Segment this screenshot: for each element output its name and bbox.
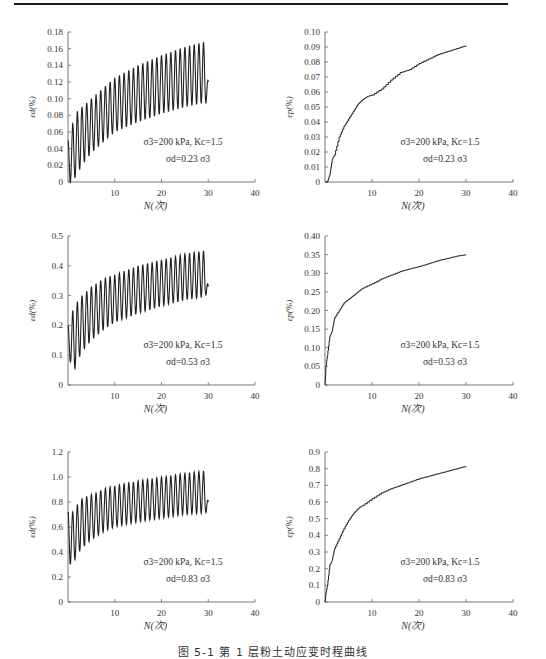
y-tick-label: 0.1 [52,350,63,360]
x-tick-label: 20 [157,391,167,401]
x-tick-label: 10 [110,391,120,401]
x-axis-label: N(次) [143,200,168,212]
y-tick-label: 0.2 [52,320,63,330]
y-tick-label: 0.08 [304,57,320,67]
y-tick-label: 0.18 [47,27,63,37]
y-axis-label: εp(%) [284,516,294,538]
y-tick-label: 0.5 [309,514,321,524]
chart-row2-right: 00.050.100.150.200.250.300.350.401020304… [284,231,518,415]
y-tick-label: 0.25 [304,287,320,297]
x-tick-label: 10 [368,608,378,618]
chart-row1-right: 00.010.020.030.040.050.060.070.080.090.1… [284,27,518,212]
chart-annotation: σ3=200 kPa, Kc=1.5 [143,340,222,350]
y-tick-label: 0.6 [52,522,64,532]
y-tick-label: 0 [316,380,321,390]
x-tick-label: 30 [204,391,214,401]
y-tick-label: 0.2 [52,572,63,582]
y-tick-label: 0.04 [304,117,320,127]
strain-curve [68,471,208,565]
y-tick-label: 0.8 [52,497,64,507]
y-tick-label: 0.14 [47,60,63,70]
chart-annotation: σd=0.53 σ3 [423,357,467,367]
chart-annotation: σd=0.23 σ3 [423,154,467,164]
y-axis-label: εd(%) [27,96,37,118]
chart-annotation: σ3=200 kPa, Kc=1.5 [400,340,479,350]
y-tick-label: 0.8 [309,464,321,474]
y-tick-label: 0.03 [304,132,320,142]
y-axis-label: εp(%) [284,96,294,118]
x-tick-label: 40 [251,608,261,618]
y-tick-label: 0.35 [304,250,320,260]
figure-panels: 00.020.040.060.080.100.120.140.160.18102… [0,0,546,659]
x-tick-label: 10 [110,188,120,198]
y-tick-label: 0.7 [309,480,321,490]
x-tick-label: 40 [251,188,261,198]
x-axis-label: N(次) [400,403,425,415]
y-tick-label: 0 [59,380,64,390]
chart-row1-left: 00.020.040.060.080.100.120.140.160.18102… [27,27,260,212]
y-tick-label: 0.3 [309,547,321,557]
y-tick-label: 0.06 [47,127,63,137]
x-axis-label: N(次) [143,403,168,415]
y-tick-label: 0.4 [309,530,321,540]
x-axis-label: N(次) [400,620,425,632]
x-tick-label: 30 [462,188,472,198]
y-axis-label: εp(%) [284,300,294,322]
x-tick-label: 10 [368,188,378,198]
y-tick-label: 0 [59,177,64,187]
y-tick-label: 0.40 [304,231,320,241]
y-tick-label: 0.02 [304,147,320,157]
y-tick-label: 0.06 [304,87,320,97]
x-tick-label: 20 [415,188,425,198]
x-tick-label: 30 [204,188,214,198]
x-axis-label: N(次) [400,200,425,212]
strain-curve [68,251,208,369]
chart-annotation: σ3=200 kPa, Kc=1.5 [400,137,479,147]
x-tick-label: 30 [204,608,214,618]
x-axis-label: N(次) [143,620,168,632]
x-tick-label: 40 [251,391,261,401]
y-tick-label: 0.4 [52,261,64,271]
y-tick-label: 0.20 [304,306,320,316]
chart-row2-left: 00.10.20.30.40.510203040N(次)εd(%)σ3=200 … [27,231,260,415]
y-tick-label: 0.10 [47,94,63,104]
y-tick-label: 1.2 [52,447,63,457]
y-tick-label: 0.5 [52,231,64,241]
y-tick-label: 0.05 [304,361,320,371]
x-tick-label: 40 [509,391,519,401]
chart-annotation: σd=0.23 σ3 [166,154,210,164]
figure-caption: 图 5-1 第 1 层粉土动应变时程曲线 [0,643,546,659]
y-tick-label: 0.04 [47,144,63,154]
y-tick-label: 0.2 [309,564,320,574]
y-tick-label: 0.05 [304,102,320,112]
y-tick-label: 0.01 [304,162,320,172]
chart-annotation: σd=0.53 σ3 [166,357,210,367]
y-axis-label: εd(%) [27,300,37,322]
y-tick-label: 0 [316,597,321,607]
y-tick-label: 0.1 [309,580,320,590]
y-tick-label: 0.02 [47,160,63,170]
y-tick-label: 0.16 [47,44,63,54]
y-tick-label: 0.12 [47,77,63,87]
y-tick-label: 0.10 [304,27,320,37]
y-tick-label: 0 [59,597,64,607]
x-tick-label: 30 [462,608,472,618]
x-tick-label: 30 [462,391,472,401]
chart-annotation: σd=0.83 σ3 [423,574,467,584]
x-tick-label: 20 [415,608,425,618]
y-tick-label: 0.6 [309,497,321,507]
x-tick-label: 20 [157,608,167,618]
y-tick-label: 0.10 [304,343,320,353]
y-tick-label: 0.30 [304,268,320,278]
x-tick-label: 10 [368,391,378,401]
y-tick-label: 0.15 [304,324,320,334]
chart-row3-left: 00.20.40.60.81.01.210203040N(次)εd(%)σ3=2… [27,447,260,632]
y-tick-label: 0.09 [304,42,320,52]
x-tick-label: 40 [509,188,519,198]
y-tick-label: 0.3 [52,291,64,301]
x-tick-label: 20 [157,188,167,198]
chart-row3-right: 00.10.20.30.40.50.60.70.80.910203040N(次)… [284,447,518,632]
chart-annotation: σ3=200 kPa, Kc=1.5 [400,557,479,567]
y-tick-label: 1.0 [52,472,64,482]
